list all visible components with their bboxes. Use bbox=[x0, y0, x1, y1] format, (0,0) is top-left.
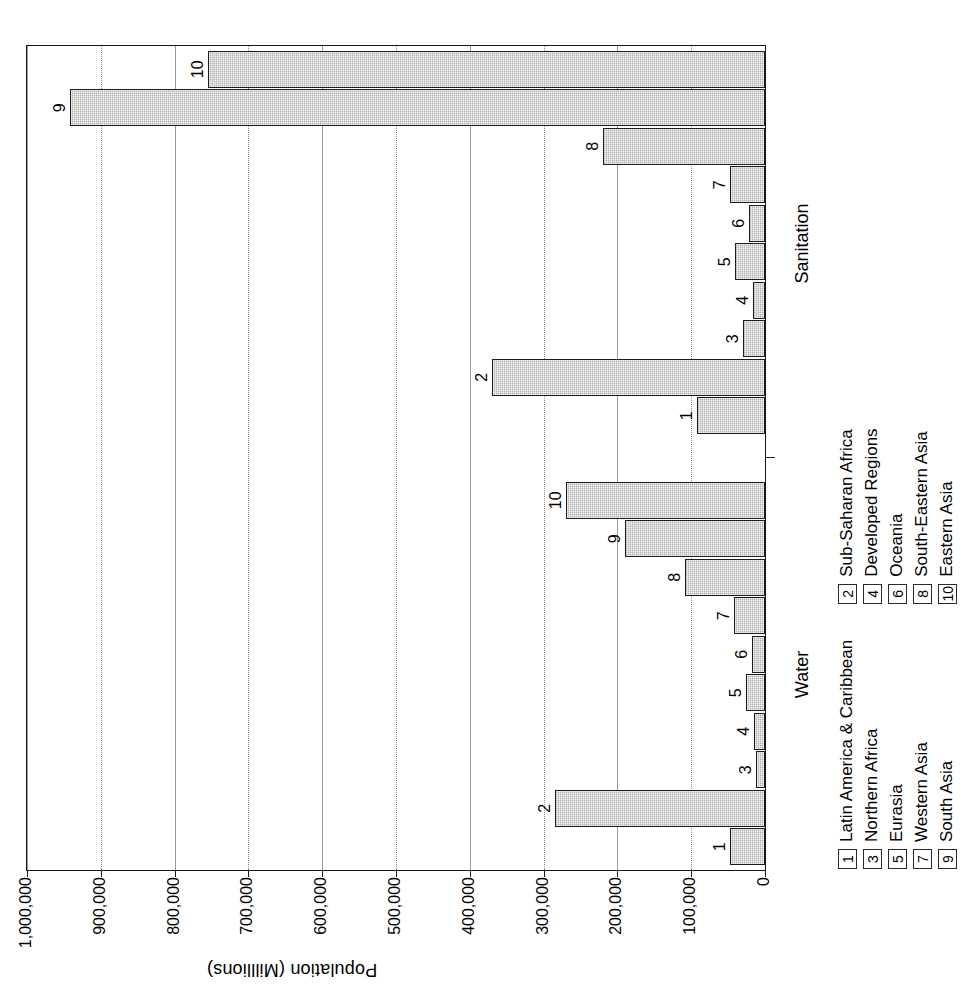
bar-value-label: 4 bbox=[736, 727, 752, 736]
legend-label: South-Eastern Asia bbox=[912, 431, 932, 577]
bar: 5 bbox=[735, 243, 765, 280]
legend-item[interactable]: 10Eastern Asia bbox=[936, 428, 958, 603]
y-axis-tick-label: 600,000 bbox=[312, 877, 330, 935]
bar-value-label: 1 bbox=[679, 411, 695, 420]
legend-item[interactable]: 7Western Asia bbox=[911, 640, 933, 869]
legend-item[interactable]: 4Developed Regions bbox=[861, 428, 883, 603]
bar: 2 bbox=[492, 359, 765, 396]
bar: 8 bbox=[685, 559, 765, 596]
y-axis-tick-labels: 0100,000200,000300,000400,000500,000600,… bbox=[0, 877, 584, 989]
legend-item[interactable]: 1Latin America & Caribbean bbox=[836, 640, 858, 869]
legend-key-box: 3 bbox=[863, 849, 882, 869]
legend-key-box: 1 bbox=[838, 849, 857, 869]
y-axis-tick-mark bbox=[27, 870, 28, 877]
legend-label: Eastern Asia bbox=[937, 481, 957, 576]
chart-legend: 1Latin America & Caribbean3Northern Afri… bbox=[836, 49, 961, 869]
legend-label: Northern Africa bbox=[862, 729, 882, 842]
y-axis-tick-label: 100,000 bbox=[681, 877, 699, 935]
legend-label: Developed Regions bbox=[862, 428, 882, 576]
legend-item[interactable]: 5Eurasia bbox=[886, 640, 908, 869]
legend-label: Western Asia bbox=[912, 742, 932, 842]
y-axis-tick-mark bbox=[322, 870, 323, 877]
bar-value-label: 3 bbox=[725, 334, 741, 343]
legend-key-box: 4 bbox=[863, 584, 882, 604]
bar: 3 bbox=[743, 320, 765, 357]
legend-item[interactable]: 9South Asia bbox=[936, 640, 958, 869]
bar-value-label: 10 bbox=[548, 491, 564, 509]
bar-value-label: 6 bbox=[731, 219, 747, 228]
bar-value-label: 5 bbox=[728, 688, 744, 697]
legend-label: Oceania bbox=[887, 513, 907, 576]
bar-value-label: 4 bbox=[735, 296, 751, 305]
bar-value-label: 8 bbox=[667, 573, 683, 582]
group-title: Sanitation bbox=[792, 203, 813, 283]
legend-label: Latin America & Caribbean bbox=[837, 640, 857, 842]
legend-key-box: 2 bbox=[838, 584, 857, 604]
legend-label: Eurasia bbox=[887, 784, 907, 842]
bar-value-label: 2 bbox=[474, 373, 490, 382]
bar-value-label: 7 bbox=[712, 180, 728, 189]
bar: 7 bbox=[730, 166, 765, 203]
legend-item[interactable]: 6Oceania bbox=[886, 428, 908, 603]
y-axis-tick-label: 1,000,000 bbox=[17, 877, 35, 948]
legend-key-box: 8 bbox=[913, 584, 932, 604]
legend-column: 2Sub-Saharan Africa4Developed Regions6Oc… bbox=[836, 428, 961, 603]
y-axis-tick-mark bbox=[101, 870, 102, 877]
bar: 9 bbox=[70, 89, 765, 126]
bar: 10 bbox=[208, 51, 765, 88]
y-axis-tick-label: 300,000 bbox=[534, 877, 552, 935]
y-axis-tick-mark bbox=[691, 870, 692, 877]
legend-item[interactable]: 2Sub-Saharan Africa bbox=[836, 428, 858, 603]
bar-value-label: 2 bbox=[537, 804, 553, 813]
bar-value-label: 7 bbox=[716, 611, 732, 620]
legend-key-box: 10 bbox=[938, 584, 957, 604]
bar: 5 bbox=[746, 674, 765, 711]
y-axis-tick-label: 700,000 bbox=[238, 877, 256, 935]
legend-key-box: 9 bbox=[938, 849, 957, 869]
bar: 1 bbox=[730, 828, 765, 865]
bar: 4 bbox=[753, 282, 765, 319]
legend-key-box: 6 bbox=[888, 584, 907, 604]
bar-value-label: 9 bbox=[607, 534, 623, 543]
bar-value-label: 10 bbox=[190, 60, 206, 78]
legend-key-box: 7 bbox=[913, 849, 932, 869]
bar: 6 bbox=[752, 636, 765, 673]
legend-key-box: 5 bbox=[888, 849, 907, 869]
y-axis-tick-label: 200,000 bbox=[607, 877, 625, 935]
group-separator bbox=[765, 457, 775, 458]
y-axis-tick-label: 800,000 bbox=[165, 877, 183, 935]
legend-item[interactable]: 8South-Eastern Asia bbox=[911, 428, 933, 603]
legend-item[interactable]: 3Northern Africa bbox=[861, 640, 883, 869]
bar: 2 bbox=[555, 790, 765, 827]
y-axis-tick-label: 900,000 bbox=[91, 877, 109, 935]
y-axis-tick-label: 500,000 bbox=[386, 877, 404, 935]
y-axis-tick-mark bbox=[470, 870, 471, 877]
bar-value-label: 3 bbox=[738, 765, 754, 774]
bar: 10 bbox=[566, 482, 765, 519]
y-axis-tick-mark bbox=[248, 870, 249, 877]
y-axis-tick-mark bbox=[396, 870, 397, 877]
bar: 8 bbox=[603, 128, 765, 165]
y-axis-tick-mark bbox=[175, 870, 176, 877]
bar: 7 bbox=[734, 597, 765, 634]
bar: 6 bbox=[749, 205, 765, 242]
plot-area: 1234567891012345678910 bbox=[26, 45, 766, 871]
bar-value-label: 9 bbox=[52, 103, 68, 112]
y-axis-tick-mark bbox=[617, 870, 618, 877]
bar-series-layer: 1234567891012345678910 bbox=[27, 46, 765, 870]
bar: 1 bbox=[697, 397, 765, 434]
y-axis-tick-mark bbox=[765, 870, 766, 877]
legend-column: 1Latin America & Caribbean3Northern Afri… bbox=[836, 640, 961, 869]
y-axis-tick-mark bbox=[544, 870, 545, 877]
bar-value-label: 5 bbox=[717, 257, 733, 266]
y-axis-tick-label: 400,000 bbox=[460, 877, 478, 935]
bar-value-label: 6 bbox=[734, 650, 750, 659]
legend-label: South Asia bbox=[937, 761, 957, 842]
bar-value-label: 1 bbox=[712, 842, 728, 851]
bar: 9 bbox=[625, 520, 765, 557]
group-title: Water bbox=[792, 651, 813, 698]
bar: 3 bbox=[756, 751, 765, 788]
bar: 4 bbox=[754, 713, 765, 750]
legend-label: Sub-Saharan Africa bbox=[837, 429, 857, 576]
